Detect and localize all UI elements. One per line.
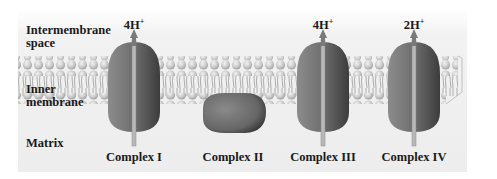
intermembrane-label-line2: space xyxy=(26,37,111,50)
complex-i-proton-label: 4H+ xyxy=(114,15,154,32)
complex-i-label: Complex I xyxy=(89,151,179,164)
proton-channel-iii xyxy=(321,40,325,146)
complex-ii-protein xyxy=(203,93,266,133)
inner-membrane-label-line2: membrane xyxy=(26,96,84,109)
intermembrane-space-label: Intermembrane space xyxy=(26,24,111,50)
matrix-label: Matrix xyxy=(26,137,63,150)
complex-iii-label: Complex III xyxy=(278,151,368,164)
complex-iii-proton-label: 4H+ xyxy=(303,15,343,32)
inner-membrane-label: Inner membrane xyxy=(26,83,84,109)
complex-ii-label: Complex II xyxy=(188,151,278,164)
proton-count: 2H xyxy=(404,18,420,32)
complex-iv-label: Complex IV xyxy=(369,151,459,164)
proton-count: 4H xyxy=(313,18,329,32)
proton-count: 4H xyxy=(124,18,140,32)
proton-charge: + xyxy=(140,17,145,26)
proton-charge: + xyxy=(329,17,334,26)
complex-iv-proton-label: 2H+ xyxy=(394,15,434,32)
proton-charge: + xyxy=(420,17,425,26)
proton-channel-i xyxy=(132,40,136,146)
proton-channel-iv xyxy=(412,40,416,146)
